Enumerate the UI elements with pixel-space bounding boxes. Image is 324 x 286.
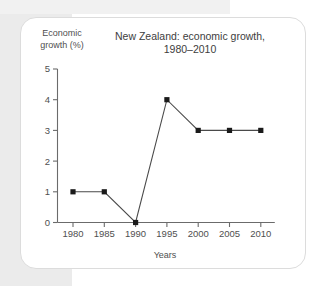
background-band-top: [0, 0, 230, 14]
chart-title-line1: New Zealand: economic growth,: [95, 30, 285, 43]
y-axis-title-line2: growth (%): [24, 40, 100, 52]
chart-title: New Zealand: economic growth, 1980–2010: [95, 30, 285, 56]
y-axis-title-line1: Economic: [24, 28, 100, 40]
x-axis-title: Years: [105, 250, 225, 260]
y-axis-title: Economic growth (%): [24, 28, 100, 51]
chart-title-line2: 1980–2010: [95, 43, 285, 56]
